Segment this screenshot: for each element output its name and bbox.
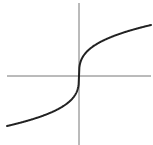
cube-root-plot [0,0,153,145]
